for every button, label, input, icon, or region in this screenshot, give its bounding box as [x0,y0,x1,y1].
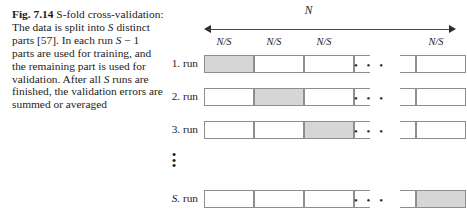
arrow-shaft [208,29,452,30]
data-cell [304,121,354,139]
cross-validation-diagram: N N/S N/S N/S N/S 1. run • • • 2. run • … [150,0,467,214]
data-cell [254,88,304,106]
total-length-arrow [204,25,456,34]
data-strip-run-s-tail [400,190,466,208]
data-strip-run-3-tail [400,121,466,139]
data-strip-run-1 [204,55,356,73]
part-label-2: N/S [254,36,294,47]
data-cell-partial [400,55,416,73]
data-cell [254,121,304,139]
rows-vertical-ellipsis: • • • [150,152,198,169]
arrow-head-right-icon [449,25,456,33]
data-cell [304,88,354,106]
part-label-3: N/S [304,36,344,47]
row-ellipsis-3: • • • [350,125,390,137]
total-length-label: N [150,4,467,16]
data-cell [416,88,466,106]
row-ellipsis-s: • • • [350,194,390,206]
vertical-ellipsis-dot: • [150,163,198,169]
row-label-run-2: 2. run [150,90,198,102]
data-cell [416,190,466,208]
data-cell [254,190,304,208]
data-strip-run-1-tail [400,55,466,73]
figure-number: Fig. 7.14 [12,8,53,20]
row-ellipsis-1: • • • [350,59,390,71]
data-strip-run-3 [204,121,356,139]
data-strip-run-2-tail [400,88,466,106]
data-strip-run-2 [204,88,356,106]
part-label-last: N/S [416,36,456,47]
row-label-run-3: 3. run [150,123,198,135]
data-cell [204,55,254,73]
data-cell [204,88,254,106]
figure-title: S-fold [56,8,84,20]
row-label-run-s: S. run [150,192,198,204]
data-strip-run-s [204,190,356,208]
data-cell [204,121,254,139]
part-label-1: N/S [204,36,244,47]
data-cell [254,55,304,73]
data-cell [304,55,354,73]
data-cell [304,190,354,208]
data-cell [416,55,466,73]
data-cell-partial [400,88,416,106]
data-cell-partial [400,190,416,208]
row-label-run-s-symbol: S. [172,192,180,204]
figure-caption: Fig. 7.14 S-fold cross-validation: The d… [12,8,164,111]
row-label-run-1: 1. run [150,57,198,69]
data-cell [416,121,466,139]
data-cell-partial [400,121,416,139]
row-label-run-s-word: run [183,192,198,204]
row-ellipsis-2: • • • [350,92,390,104]
data-cell [204,190,254,208]
figure-caption-body: cross-validation: The data is split into… [12,8,164,110]
